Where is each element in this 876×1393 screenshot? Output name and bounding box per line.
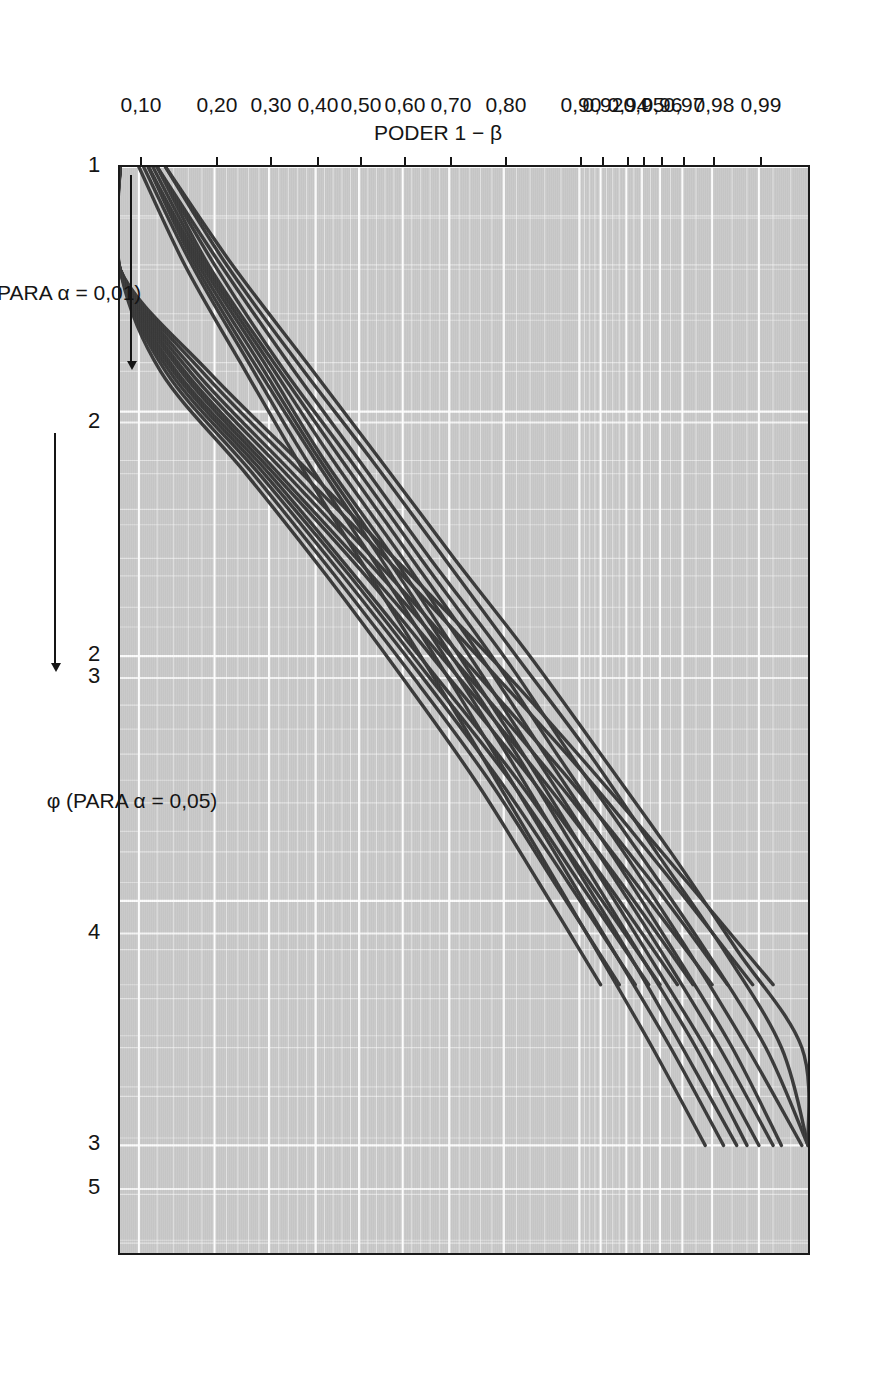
x-tick-alpha005: 1 (88, 152, 100, 178)
x-axis-title-alpha005: φ (PARA α = 0,05) (47, 788, 218, 812)
y-tick-mark (404, 157, 406, 165)
x-tick-alpha001: 2 (88, 407, 100, 433)
y-tick-label: 0,10 (121, 93, 162, 117)
plot-area (118, 165, 810, 1255)
y-axis-title: PODER 1 − β (374, 121, 502, 145)
x-axis-arrow-alpha001 (54, 433, 56, 663)
x-axis-arrowhead-alpha005 (127, 360, 137, 369)
y-tick-mark (505, 157, 507, 165)
x-tick-alpha001: 4 (88, 918, 100, 944)
y-tick-label: 0,20 (196, 93, 237, 117)
y-tick-label: 0,30 (251, 93, 292, 117)
grid-and-curves (120, 167, 808, 1253)
rotated-figure-wrapper: 0,990,980,970,960,950,940,920,900,800,70… (38, 47, 838, 1347)
x-axis-title-alpha001: φ (PARA α = 0,01) (0, 280, 141, 304)
y-tick-mark (643, 157, 645, 165)
figure-page: 0,990,980,970,960,950,940,920,900,800,70… (0, 0, 876, 1393)
y-tick-mark (713, 157, 715, 165)
y-tick-mark (317, 157, 319, 165)
y-tick-mark (627, 157, 629, 165)
y-tick-mark (580, 157, 582, 165)
y-tick-label: 0,40 (297, 93, 338, 117)
x-tick-alpha001: 5 (88, 1174, 100, 1200)
x-axis-arrow-alpha005 (130, 174, 132, 360)
x-axis-arrowhead-alpha001 (51, 663, 61, 672)
y-tick-label: 0,99 (740, 93, 781, 117)
y-tick-label: 0,90 (561, 93, 602, 117)
y-tick-mark (450, 157, 452, 165)
y-tick-label: 0,70 (431, 93, 472, 117)
y-tick-mark (602, 157, 604, 165)
y-tick-label: 0,60 (384, 93, 425, 117)
y-tick-label: 0,80 (485, 93, 526, 117)
y-tick-mark (140, 157, 142, 165)
figure-canvas: 0,990,980,970,960,950,940,920,900,800,70… (38, 47, 838, 1347)
y-tick-mark (216, 157, 218, 165)
x-tick-alpha001: 3 (88, 663, 100, 689)
y-tick-mark (661, 157, 663, 165)
x-tick-alpha005: 3 (88, 1130, 100, 1156)
y-tick-mark (360, 157, 362, 165)
y-tick-mark (760, 157, 762, 165)
y-tick-label: 0,50 (341, 93, 382, 117)
y-tick-mark (683, 157, 685, 165)
y-tick-mark (270, 157, 272, 165)
